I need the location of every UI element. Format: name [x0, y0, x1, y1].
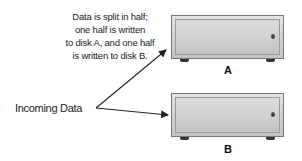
disk-a: [171, 15, 284, 59]
disk-b-label: B: [218, 143, 238, 155]
disk-a-label: A: [218, 64, 238, 76]
disk-b-led-icon: [271, 112, 275, 117]
disk-a-panel: [175, 19, 280, 55]
disk-b-foot-right: [266, 137, 275, 140]
arrow-to-disk-a: [96, 50, 166, 108]
disk-a-foot-left: [180, 59, 189, 62]
disk-a-led-icon: [271, 34, 275, 39]
disk-b-foot-left: [180, 137, 189, 140]
disk-b-panel: [175, 97, 280, 133]
disk-a-foot-right: [266, 59, 275, 62]
arrow-to-disk-b: [96, 108, 168, 115]
disk-b: [171, 93, 284, 137]
